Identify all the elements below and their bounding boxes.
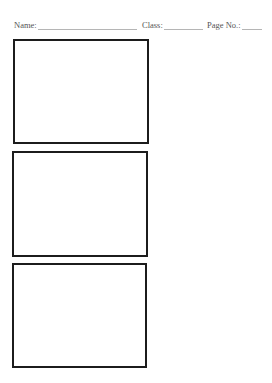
- name-label: Name:: [14, 19, 37, 31]
- class-label: Class:: [142, 19, 163, 31]
- drawing-panel-1[interactable]: [13, 39, 149, 144]
- class-field[interactable]: [164, 29, 203, 30]
- page-number-label: Page No.:: [207, 19, 241, 31]
- page-number-field[interactable]: [242, 29, 262, 30]
- drawing-panel-2[interactable]: [12, 151, 148, 257]
- drawing-panel-3[interactable]: [12, 263, 147, 368]
- worksheet-header: Name: Class: Page No.:: [14, 19, 264, 31]
- name-field[interactable]: [38, 29, 137, 30]
